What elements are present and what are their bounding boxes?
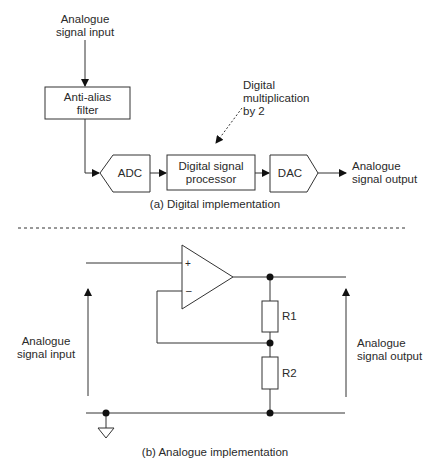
analogue-output-label: Analogue signal output [357,337,422,363]
adc-label: ADC [110,167,150,180]
digital-output-label: Analogue signal output [352,160,417,186]
dsp-label: Digital signal processor [167,160,255,186]
minus-input-label: – [186,284,192,297]
multiplication-note: Digital multiplication by 2 [243,79,309,118]
caption-a: (a) Digital implementation [100,198,330,211]
diagram-graphics [0,0,433,469]
filter-label: Anti-alias filter [45,91,130,117]
resistor-r1 [262,301,278,332]
diagram: Analogue signal input Anti-alias filter … [0,0,433,469]
digital-input-label: Analogue signal input [45,13,125,39]
caption-b: (b) Analogue implementation [100,446,330,459]
r1-label: R1 [282,310,297,323]
r2-label: R2 [282,367,297,380]
resistor-r2 [262,357,278,389]
plus-input-label: + [185,257,191,270]
note-arrow [216,108,242,143]
op-amp [182,245,233,309]
ground-symbol [98,428,114,438]
analogue-input-label: Analogue signal input [15,335,77,361]
dac-label: DAC [270,167,310,180]
